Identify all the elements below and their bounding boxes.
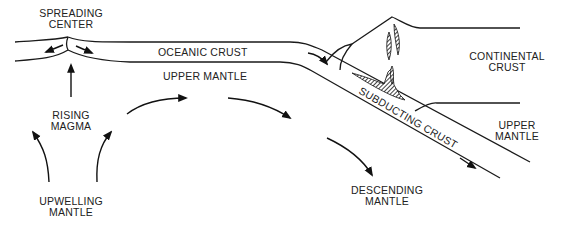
continental-crust-bottom <box>415 103 520 111</box>
oceanic-crust-flow-arrow-icon <box>308 53 327 64</box>
upwelling-arrow-right-icon <box>97 132 111 182</box>
label-rising-magma-2: MAGMA <box>51 120 92 132</box>
spreading-arrow-left-icon <box>46 45 63 52</box>
label-oceanic-crust: OCEANIC CRUST <box>158 46 248 58</box>
label-upper-mantle-left: UPPER MANTLE <box>163 70 247 82</box>
magma-dike-top <box>394 24 399 55</box>
label-upwelling-mantle-2: MANTLE <box>49 206 93 218</box>
label-continental-crust-2: CRUST <box>488 61 526 73</box>
plate-tectonics-diagram: SPREADING CENTER OCEANIC CRUST UPPER MAN… <box>0 0 570 225</box>
oceanic-crust-top <box>68 37 530 162</box>
ridge-crack <box>67 37 69 50</box>
label-spreading-center-2: CENTER <box>49 18 94 30</box>
magma-dike-mid <box>391 66 394 84</box>
spreading-arrow-right-icon <box>76 46 92 53</box>
label-descending-mantle-2: MANTLE <box>365 195 409 207</box>
continental-crust-top <box>352 17 520 44</box>
label-upper-mantle-right-2: MANTLE <box>495 130 539 142</box>
accretionary-wedge <box>326 44 352 70</box>
convection-arrow-right-icon <box>228 98 290 118</box>
magma-dike-upper <box>387 32 392 60</box>
convection-arrow-upper-icon <box>127 98 186 114</box>
label-subducting-crust: SUBDUCTING CRUST <box>357 84 460 150</box>
descending-mantle-arrow-icon <box>327 138 372 175</box>
upwelling-arrow-left-icon <box>33 132 49 182</box>
oceanic-crust-left-top <box>15 37 68 42</box>
oceanic-crust-left-bottom <box>15 50 68 61</box>
